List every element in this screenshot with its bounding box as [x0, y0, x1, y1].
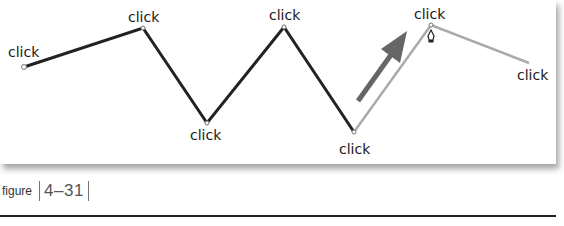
click-label: click	[128, 10, 159, 24]
figure-caption: figure 4–31	[2, 181, 89, 201]
divider-rule	[0, 215, 556, 217]
path-diagram	[0, 0, 556, 164]
click-label: click	[269, 8, 300, 22]
click-label: click	[8, 45, 39, 59]
caption-prefix: figure	[2, 184, 32, 198]
diagram-panel: click click click click click click clic…	[0, 0, 556, 164]
click-label: click	[190, 128, 221, 142]
click-label: click	[414, 7, 445, 21]
click-label: click	[339, 142, 370, 156]
dark-path	[24, 27, 354, 132]
click-label: click	[517, 68, 548, 82]
pen-tool-cursor-icon	[428, 30, 434, 43]
figure-number: 4–31	[39, 181, 89, 201]
light-path	[354, 25, 529, 132]
